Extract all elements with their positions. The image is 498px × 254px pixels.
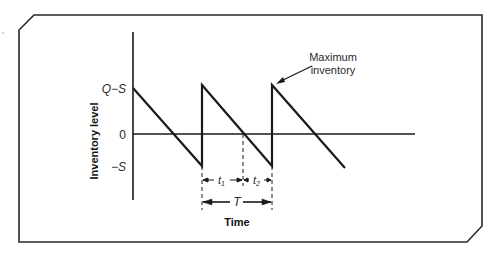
stray-dot bbox=[2, 32, 4, 34]
y-axis-label: Inventory level bbox=[88, 102, 100, 179]
x-axis-label: Time bbox=[224, 216, 249, 228]
tick-label-q-minus-s: Q−S bbox=[102, 82, 126, 96]
annotation-line2: inventory bbox=[311, 64, 356, 76]
inventory-sawtooth-line bbox=[133, 85, 345, 168]
cycle-T-label: T bbox=[233, 195, 242, 209]
annotation-line1: Maximum bbox=[309, 51, 357, 63]
t1-label: t1 bbox=[218, 174, 225, 187]
t2-label: t2 bbox=[253, 174, 260, 187]
inventory-diagram: Q−S 0 −S Inventory level Time Maximum in… bbox=[0, 0, 498, 254]
tick-label-zero: 0 bbox=[119, 128, 126, 142]
tick-label-minus-s: −S bbox=[111, 160, 126, 174]
max-inventory-pointer bbox=[276, 66, 312, 84]
